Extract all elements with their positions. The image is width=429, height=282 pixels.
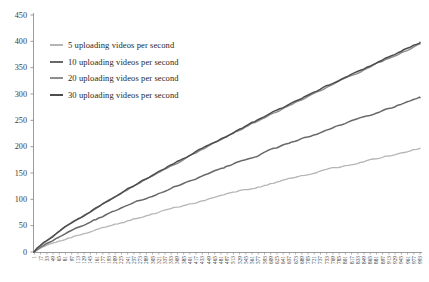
x-tick-label: 561: [249, 256, 255, 264]
x-tick-label: 97: [69, 256, 75, 262]
x-tick-label: 545: [243, 256, 249, 264]
x-tick-label: 609: [268, 256, 274, 264]
x-tick-label: 657: [286, 256, 292, 264]
legend-swatch: [50, 44, 63, 46]
chart-canvas: 0501001502002503003504004501173349658197…: [0, 0, 429, 282]
x-tick-label: 33: [44, 256, 50, 262]
x-tick-label: 417: [193, 256, 199, 264]
x-tick-label: 641: [280, 256, 286, 264]
legend-item: 20 uploading videos per second: [50, 70, 179, 87]
x-tick-label: 433: [199, 256, 205, 264]
x-tick-label: 705: [305, 256, 311, 264]
x-tick-label: 81: [62, 256, 68, 262]
x-tick-label: 625: [274, 256, 280, 264]
y-tick-label: 400: [15, 37, 27, 46]
x-tick-label: 913: [386, 256, 392, 264]
x-tick-label: 721: [311, 256, 317, 264]
y-tick-label: 300: [15, 90, 27, 99]
x-tick-label: 369: [174, 256, 180, 264]
x-tick-label: 385: [181, 256, 187, 264]
x-tick-label: 337: [162, 256, 168, 264]
x-tick-label: 897: [380, 256, 386, 264]
x-tick-label: 65: [56, 256, 62, 262]
x-tick-label: 961: [405, 256, 411, 264]
x-tick-label: 17: [38, 256, 44, 262]
y-tick-label: 250: [15, 116, 27, 125]
x-tick-label: 497: [224, 256, 230, 264]
legend-swatch: [50, 61, 63, 63]
x-tick-label: 193: [106, 256, 112, 264]
legend-item: 10 uploading videos per second: [50, 54, 179, 71]
x-tick-label: 529: [237, 256, 243, 264]
x-tick-label: 321: [156, 256, 162, 264]
x-tick-label: 289: [143, 256, 149, 264]
legend-label: 20 uploading videos per second: [68, 73, 179, 83]
x-tick-label: 513: [230, 256, 236, 264]
legend-label: 30 uploading videos per second: [68, 90, 179, 100]
x-tick-label: 145: [87, 256, 93, 264]
x-tick-label: 129: [81, 256, 87, 264]
y-tick-label: 100: [15, 195, 27, 204]
x-tick-label: 801: [342, 256, 348, 264]
legend-swatch: [50, 77, 63, 79]
x-tick-label: 977: [411, 256, 417, 264]
legend: 5 uploading videos per second 10 uploadi…: [50, 37, 179, 103]
x-tick-label: 177: [100, 256, 106, 264]
x-tick-label: 929: [392, 256, 398, 264]
x-tick-label: 273: [137, 256, 143, 264]
y-tick-label: 50: [19, 221, 27, 230]
x-tick-label: 305: [150, 256, 156, 264]
x-tick-label: 481: [218, 256, 224, 264]
x-tick-label: 865: [367, 256, 373, 264]
x-tick-label: 753: [324, 256, 330, 264]
x-tick-label: 593: [262, 256, 268, 264]
x-tick-label: 689: [299, 256, 305, 264]
legend-swatch: [50, 94, 63, 96]
x-tick-label: 209: [112, 256, 118, 264]
legend-label: 10 uploading videos per second: [68, 57, 179, 67]
x-tick-label: 673: [293, 256, 299, 264]
x-tick-label: 401: [187, 256, 193, 264]
y-tick-label: 450: [15, 11, 27, 20]
x-tick-label: 225: [118, 256, 124, 264]
x-tick-label: 785: [336, 256, 342, 264]
x-tick-label: 449: [206, 256, 212, 264]
legend-item: 30 uploading videos per second: [50, 87, 179, 104]
x-tick-label: 849: [361, 256, 367, 264]
x-tick-label: 769: [330, 256, 336, 264]
y-tick-label: 0: [23, 248, 27, 257]
legend-label: 5 uploading videos per second: [68, 40, 174, 50]
legend-item: 5 uploading videos per second: [50, 37, 179, 54]
series-line-1: [34, 148, 420, 252]
y-tick-label: 200: [15, 142, 27, 151]
x-tick-label: 881: [373, 256, 379, 264]
x-tick-label: 161: [94, 256, 100, 264]
x-tick-label: 833: [355, 256, 361, 264]
x-tick-label: 465: [212, 256, 218, 264]
x-tick-label: 737: [317, 256, 323, 264]
x-tick-label: 1: [31, 256, 37, 259]
x-tick-label: 257: [131, 256, 137, 264]
y-tick-label: 150: [15, 169, 27, 178]
x-tick-label: 241: [125, 256, 131, 264]
x-tick-label: 577: [255, 256, 261, 264]
x-tick-label: 353: [168, 256, 174, 264]
x-tick-label: 817: [349, 256, 355, 264]
x-tick-label: 945: [398, 256, 404, 264]
series-line-2: [34, 97, 420, 252]
x-tick-label: 993: [417, 256, 423, 264]
y-tick-label: 350: [15, 63, 27, 72]
x-tick-label: 49: [50, 256, 56, 262]
x-tick-label: 113: [75, 256, 81, 264]
